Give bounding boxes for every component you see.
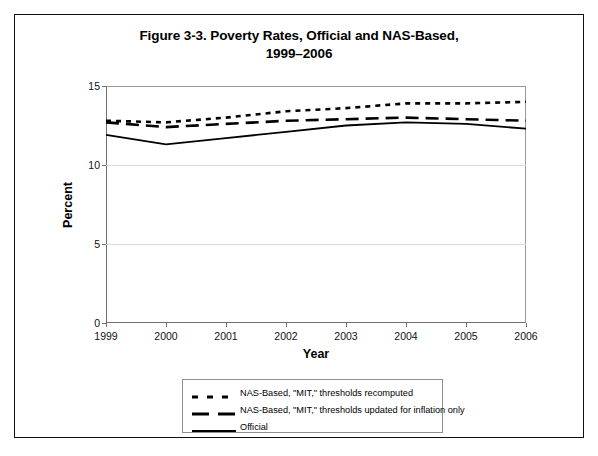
legend-swatch-solid [191,422,237,432]
x-tick-mark-2004 [406,323,407,327]
figure-frame: Figure 3-3. Poverty Rates, Official and … [14,14,584,438]
x-tick-label-2006: 2006 [514,330,537,342]
x-tick-mark-1999 [106,323,107,327]
legend-label: NAS-Based, "MIT," thresholds recomputed [240,388,413,398]
x-tick-mark-2000 [166,323,167,327]
x-tick-label-1999: 1999 [94,330,117,342]
x-tick-label-2004: 2004 [394,330,417,342]
x-tick-mark-2002 [286,323,287,327]
x-tick-label-2003: 2003 [334,330,357,342]
chart-title-line-1: Figure 3-3. Poverty Rates, Official and … [139,28,458,43]
legend-label: NAS-Based, "MIT," thresholds updated for… [240,405,465,415]
chart-title-line-2: 1999–2006 [15,45,583,63]
x-tick-label-2001: 2001 [214,330,237,342]
x-tick-mark-2001 [226,323,227,327]
y-tick-label-5: 5 [94,238,100,250]
x-tick-label-2005: 2005 [454,330,477,342]
y-tick-label-15: 15 [88,80,100,92]
legend-item: NAS-Based, "MIT," thresholds updated for… [191,402,434,418]
legend-swatch-dotted [191,388,237,398]
y-axis-title: Percent [61,182,75,228]
x-tick-mark-2006 [526,323,527,327]
chart-title: Figure 3-3. Poverty Rates, Official and … [15,27,583,63]
x-tick-mark-2005 [466,323,467,327]
x-tick-mark-2003 [346,323,347,327]
series-lines [106,86,526,323]
legend-item: NAS-Based, "MIT," thresholds recomputed [191,385,434,401]
x-tick-label-2000: 2000 [154,330,177,342]
legend-item: Official [191,419,434,435]
legend-label: Official [240,422,268,432]
chart-legend: NAS-Based, "MIT," thresholds recomputedN… [182,379,443,433]
plot-region: 051015 19992000200120022003200420052006 … [106,86,526,323]
x-axis-title: Year [106,347,526,361]
y-tick-label-10: 10 [88,159,100,171]
y-tick-label-0: 0 [94,317,100,329]
x-tick-label-2002: 2002 [274,330,297,342]
legend-swatch-dashed [191,405,237,415]
